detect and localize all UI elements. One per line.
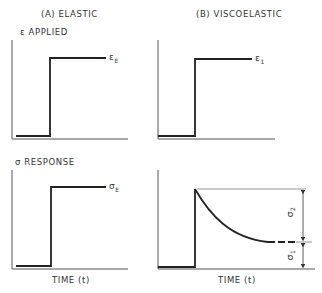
label-sigma-e: σE xyxy=(109,181,120,193)
label-sigma-2: σ2 xyxy=(285,206,297,217)
label-sigma-1: σ1 xyxy=(285,249,297,260)
step-curve-viscoelastic-strain xyxy=(158,59,252,136)
label-epsilon-e: εE xyxy=(109,52,119,64)
relaxation-curve xyxy=(195,189,268,242)
step-curve-elastic-strain xyxy=(16,58,106,136)
label-epsilon-1: ε1 xyxy=(255,53,265,65)
diagram-canvas xyxy=(0,0,322,293)
step-curve-elastic-stress xyxy=(16,187,106,266)
step-curve-viscoelastic-stress xyxy=(158,189,195,267)
